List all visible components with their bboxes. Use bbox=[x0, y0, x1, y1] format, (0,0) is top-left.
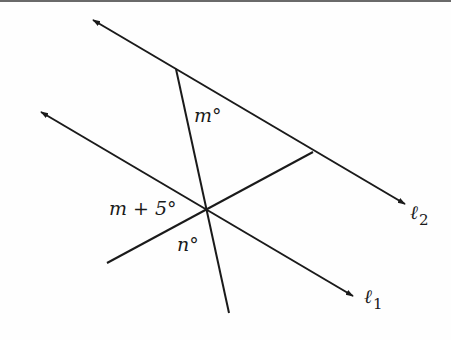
angle-label-m-plus-5: m + 5° bbox=[109, 199, 177, 218]
geometry-diagram: m° m + 5° n° ℓ2 ℓ1 bbox=[0, 0, 451, 340]
line-l2 bbox=[93, 20, 405, 204]
line-label-l2-letter: ℓ bbox=[410, 201, 418, 223]
line-label-l1: ℓ1 bbox=[364, 287, 382, 306]
angle-label-n: n° bbox=[177, 235, 199, 254]
line-label-l1-letter: ℓ bbox=[364, 285, 372, 307]
line-label-l2-subscript: 2 bbox=[419, 211, 429, 229]
line-label-l1-subscript: 1 bbox=[373, 295, 383, 313]
line-label-l2: ℓ2 bbox=[410, 203, 428, 222]
line-l1 bbox=[41, 112, 353, 296]
diagram-svg bbox=[0, 0, 451, 340]
angle-label-m: m° bbox=[194, 106, 222, 125]
